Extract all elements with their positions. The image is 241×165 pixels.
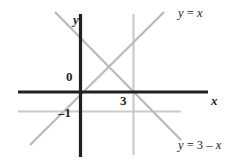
line-label-y-equals-x-operator: = [184, 6, 197, 20]
line-label-y-equals-x-rhs: x [197, 6, 203, 20]
line-y-equals-x [30, 12, 164, 145]
origin-label: 0 [66, 70, 73, 83]
x-tick-label-3: 3 [120, 94, 127, 107]
line-label-y-equals-x: y = x [178, 7, 202, 20]
x-axis-label: x [211, 94, 218, 107]
y-axis-label: y [73, 13, 79, 26]
line-label-y-equals-three-minus-x-rhs: x [216, 138, 222, 152]
line-label-y-equals-three-minus-x-operator: = 3 – [184, 138, 216, 152]
line-y-equals-three-minus-x [55, 12, 181, 140]
line-label-y-equals-three-minus-x: y = 3 – x [178, 139, 221, 152]
y-tick-label-neg-1: –1 [58, 106, 71, 119]
graph-figure: y x 0 3 –1 y = x y = 3 – x [0, 0, 241, 165]
